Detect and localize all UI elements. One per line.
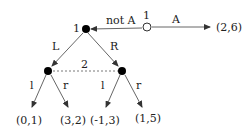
game-tree-diagram: 1 A not A (2,6) 1 L R 2 l r l r (0,1) (3…	[0, 0, 251, 136]
payoff-root: (2,6)	[216, 21, 242, 34]
edge-not-A	[91, 28, 142, 29]
action-right-r-label: r	[136, 79, 142, 92]
payoff-1: (0,1)	[16, 114, 42, 127]
player1-node	[82, 25, 90, 33]
root-player-label: 1	[143, 9, 150, 22]
payoff-2: (3,2)	[60, 114, 86, 127]
action-left-r-label: r	[63, 79, 69, 92]
action-not-A-label: not A	[106, 14, 137, 27]
action-left-l-label: l	[30, 79, 34, 92]
player2-right-node	[118, 67, 126, 75]
root-node	[143, 23, 151, 31]
action-L-label: L	[52, 40, 60, 53]
edge-right-l	[106, 75, 120, 107]
payoff-4: (1,5)	[135, 112, 161, 125]
player1-label: 1	[73, 22, 80, 35]
action-R-label: R	[110, 40, 119, 53]
player2-left-node	[44, 67, 52, 75]
game-tree-svg: 1 A not A (2,6) 1 L R 2 l r l r (0,1) (3…	[0, 0, 251, 136]
info-set-player-label: 2	[81, 58, 88, 71]
edge-left-l	[32, 75, 46, 107]
action-A-label: A	[171, 13, 181, 26]
payoff-3: (-1,3)	[90, 114, 120, 127]
action-right-l-label: l	[101, 79, 105, 92]
